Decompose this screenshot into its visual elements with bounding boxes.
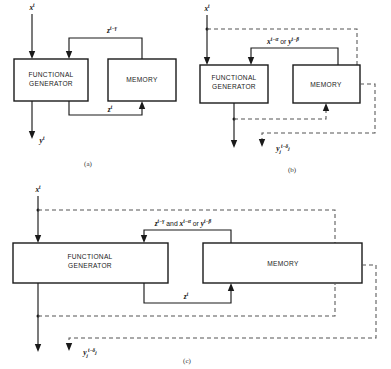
panel-c: xt FUNCTIONAL GENERATOR MEMORY zt−γ and … xyxy=(13,184,376,365)
panel-a-output-label: yt xyxy=(39,135,45,145)
panel-b-y-sub-j-label: yjt−δj xyxy=(275,143,290,154)
panel-b-fg-label-line1: FUNCTIONAL xyxy=(211,74,256,81)
panel-b-memory-input-arrowhead xyxy=(323,103,329,111)
panel-a-z-delayed-path xyxy=(69,38,142,59)
panel-c-fg-label-line1: FUNCTIONAL xyxy=(67,253,112,260)
panel-c-y-delayed-arrowhead xyxy=(66,343,72,351)
panel-a-input-label: xt xyxy=(28,2,35,12)
panel-a-fg-label-line1: FUNCTIONAL xyxy=(28,71,73,78)
panel-c-output-arrowhead xyxy=(35,344,41,352)
panel-a-z-delayed-arrowhead xyxy=(66,51,72,59)
panel-b-caption: (b) xyxy=(288,166,297,174)
panel-b-input-arrowhead xyxy=(204,57,210,65)
panel-b-fg-label-line2: GENERATOR xyxy=(212,83,256,90)
panel-b-input-label: xt xyxy=(203,3,210,13)
panel-a-caption: (a) xyxy=(84,160,92,168)
block-diagram-figure: xt FUNCTIONAL GENERATOR MEMORY zt−γ zt y… xyxy=(0,0,391,369)
panel-b-memory-label: MEMORY xyxy=(310,81,342,88)
panel-a-z-current-path xyxy=(69,101,142,115)
panel-b-feedback-path xyxy=(251,48,338,65)
panel-c-feedback-path xyxy=(144,230,231,243)
panel-a: xt FUNCTIONAL GENERATOR MEMORY zt−γ zt y… xyxy=(14,2,176,168)
panel-c-z-current-arrowhead xyxy=(228,283,234,291)
panel-a-z-current-arrowhead xyxy=(139,101,145,109)
panel-c-combined-delay-label: zt−γ and xt−α or yt−β xyxy=(154,218,212,228)
panel-b-memory-input-dashed-path xyxy=(234,109,326,119)
panel-b-x-or-y-delayed-label: xt−α or yt−β xyxy=(266,36,299,46)
panel-b: xt FUNCTIONAL GENERATOR MEMORY xt−α or y… xyxy=(200,3,375,174)
panel-b-feedback-arrowhead xyxy=(248,57,254,65)
panel-c-fg-label-line2: GENERATOR xyxy=(68,262,112,269)
panel-c-caption: (c) xyxy=(183,357,191,365)
panel-a-memory-label: MEMORY xyxy=(126,76,158,83)
panel-b-output-arrowhead xyxy=(231,140,237,148)
panel-a-output-arrowhead xyxy=(29,131,35,139)
panel-a-fg-label-line2: GENERATOR xyxy=(29,80,73,87)
panel-a-z-current-label: zt xyxy=(107,104,113,114)
panel-c-input-label: xt xyxy=(34,184,41,194)
panel-c-feedback-arrowhead xyxy=(141,235,147,243)
panel-a-z-delayed-label: zt−γ xyxy=(106,25,118,35)
panel-a-input-arrowhead xyxy=(29,51,35,59)
panel-c-memory-label: MEMORY xyxy=(267,260,299,267)
panel-c-z-current-label: zt xyxy=(183,291,189,301)
panel-c-y-sub-j-label: yjt−δj xyxy=(82,347,97,358)
panel-c-input-arrowhead xyxy=(35,235,41,243)
panel-b-y-delayed-arrowhead xyxy=(259,139,265,147)
